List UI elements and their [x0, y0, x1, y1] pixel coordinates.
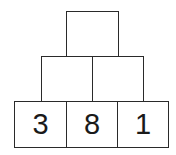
pyramid-cell-top[interactable] [66, 11, 119, 57]
pyramid-cell-bottom-left: 3 [14, 101, 67, 148]
pyramid-cell-middle-left[interactable] [41, 56, 93, 102]
pyramid-cell-bottom-right: 1 [117, 101, 169, 148]
pyramid-cell-bottom-middle: 8 [66, 101, 118, 148]
pyramid-cell-middle-right[interactable] [92, 56, 144, 102]
